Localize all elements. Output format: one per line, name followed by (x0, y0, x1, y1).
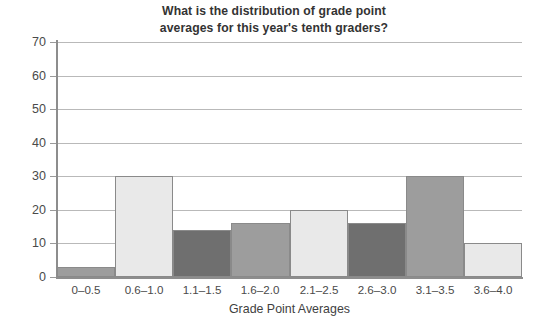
y-axis-tick-label: 50 (10, 103, 46, 115)
x-axis-tick-label: 2.1–2.5 (290, 283, 348, 296)
x-axis-tick-label: 1.1–1.5 (173, 283, 231, 296)
bar (231, 223, 290, 277)
x-axis-tick-labels: 0–0.50.6–1.01.1–1.51.6–2.02.1–2.52.6–3.0… (57, 283, 522, 301)
y-axis-tick-label: 40 (10, 137, 46, 149)
x-axis-line (56, 277, 523, 279)
y-axis-tick-label: 30 (10, 170, 46, 182)
y-axis-tick-label: 60 (10, 70, 46, 82)
x-axis-tick-label: 3.1–3.5 (406, 283, 464, 296)
grade-point-average-histogram: What is the distribution of grade point … (0, 0, 544, 324)
chart-title-line-1: What is the distribution of grade point (162, 4, 386, 18)
x-axis-title: Grade Point Averages (57, 302, 522, 316)
bar (464, 243, 522, 277)
bar-series (57, 42, 522, 277)
bar (57, 267, 115, 277)
bar (348, 223, 406, 277)
y-axis-tick-label: 0 (10, 271, 46, 283)
y-axis-tick-label: 20 (10, 204, 46, 216)
x-axis-tick-label: 0–0.5 (57, 283, 115, 296)
bar (173, 230, 231, 277)
x-axis-tick-label: 1.6–2.0 (231, 283, 289, 296)
y-axis-tick-labels: 706050403020100 (0, 0, 46, 324)
bar (406, 176, 464, 277)
y-axis-tick-label: 70 (10, 36, 46, 48)
bar (115, 176, 173, 277)
y-axis-tick-label: 10 (10, 237, 46, 249)
x-axis-tick-label: 2.6–3.0 (348, 283, 406, 296)
bar (290, 210, 348, 277)
x-axis-tick-label: 0.6–1.0 (115, 283, 173, 296)
chart-title: What is the distribution of grade point … (104, 3, 444, 36)
x-axis-tick-label: 3.6–4.0 (464, 283, 522, 296)
chart-title-line-2: averages for this year's tenth graders? (160, 21, 388, 35)
